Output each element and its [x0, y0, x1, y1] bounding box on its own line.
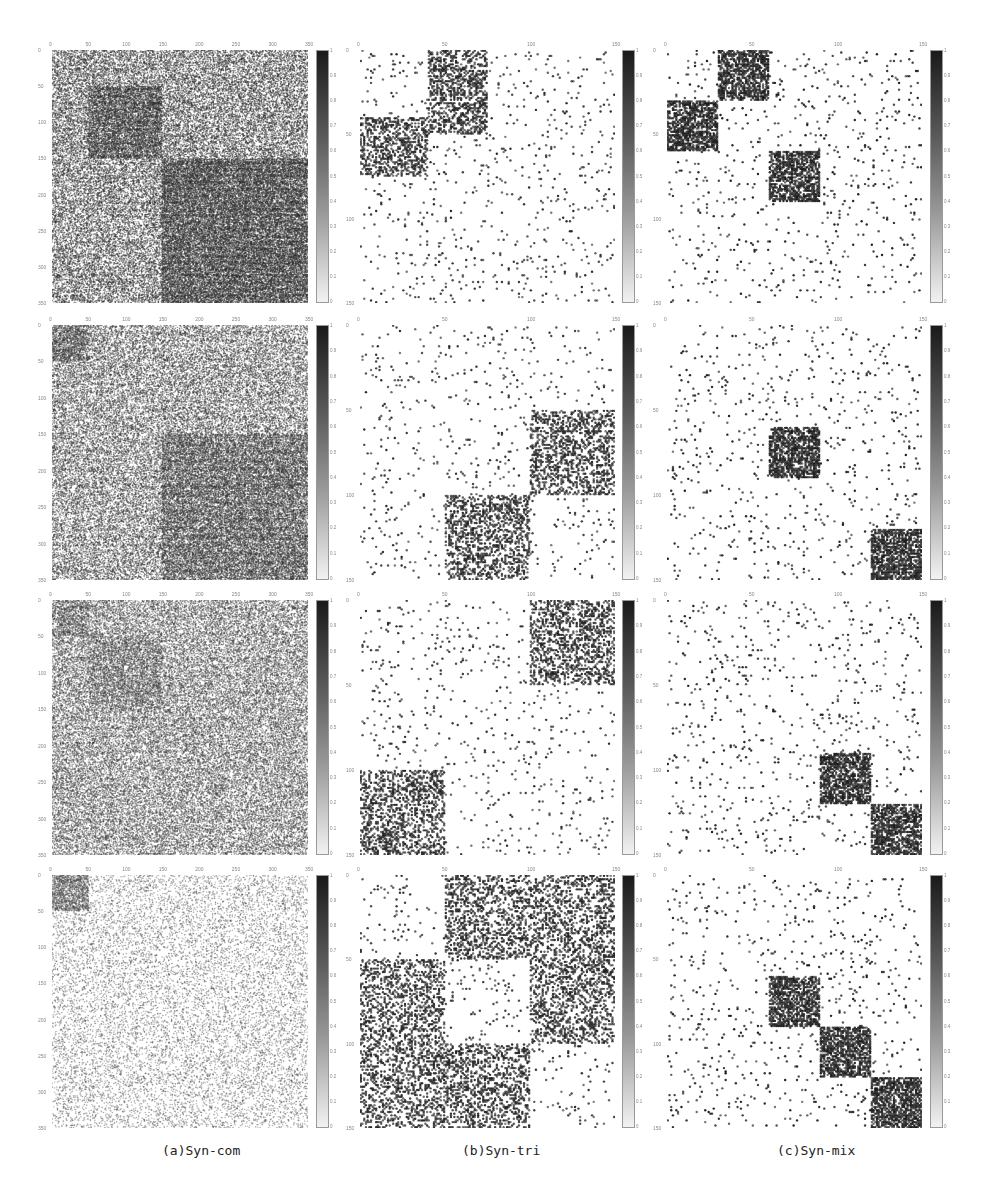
x-tick-label: 100	[527, 591, 535, 597]
y-tick-label: 100	[38, 944, 46, 950]
y-tick-label: 100	[346, 767, 354, 773]
y-tick-label: 50	[653, 682, 659, 688]
colorbar	[930, 600, 943, 855]
x-tick-label: 150	[919, 591, 927, 597]
x-tick-label: 50	[86, 591, 92, 597]
x-tick-label: 50	[442, 41, 448, 47]
colorbar-tick-label: 0.7	[330, 948, 336, 953]
colorbar-tick-label: 0.8	[330, 374, 336, 379]
colorbar-tick-label: 0.6	[636, 424, 642, 429]
x-tick-label: 150	[612, 866, 620, 872]
colorbar-tick-label: 0.1	[944, 1099, 950, 1104]
colorbar-tick-label: 0.4	[330, 199, 336, 204]
colorbar-tick-label: 0	[944, 851, 947, 856]
x-tick-label: 0	[357, 41, 360, 47]
colorbar	[316, 600, 329, 855]
colorbar-tick-label: 0.5	[944, 999, 950, 1004]
colorbar-tick-label: 1	[330, 323, 333, 328]
colorbar-tick-label: 0.2	[636, 1074, 642, 1079]
y-tick-label: 300	[38, 264, 46, 270]
x-tick-label: 300	[268, 591, 276, 597]
colorbar-tick-label: 0.6	[636, 699, 642, 704]
colorbar-tick-label: 0.4	[636, 475, 642, 480]
colorbar-tick-label: 0.8	[636, 923, 642, 928]
colorbar-tick-label: 0.6	[636, 973, 642, 978]
colorbar-tick-label: 1	[944, 873, 947, 878]
colorbar-tick-label: 0	[944, 576, 947, 581]
colorbar-tick-label: 0.8	[636, 374, 642, 379]
colorbar	[622, 50, 635, 303]
colorbar-tick-label: 0.9	[944, 898, 950, 903]
colorbar-tick-label: 0.6	[330, 148, 336, 153]
colorbar-tick-label: 0.9	[636, 348, 642, 353]
y-tick-label: 150	[38, 706, 46, 712]
y-tick-label: 0	[346, 322, 349, 328]
x-tick-label: 150	[612, 316, 620, 322]
y-tick-label: 0	[346, 597, 349, 603]
y-tick-label: 100	[38, 395, 46, 401]
x-tick-label: 50	[749, 41, 755, 47]
colorbar-tick-label: 0.5	[944, 174, 950, 179]
colorbar-tick-label: 0.1	[636, 551, 642, 556]
x-tick-label: 150	[919, 316, 927, 322]
y-tick-label: 150	[346, 577, 354, 583]
colorbar-tick-label: 0.7	[330, 399, 336, 404]
y-tick-label: 50	[653, 956, 659, 962]
y-tick-label: 50	[346, 131, 352, 137]
x-tick-label: 100	[122, 316, 130, 322]
colorbar-tick-label: 0.1	[330, 274, 336, 279]
colorbar-tick-label: 0.7	[330, 674, 336, 679]
colorbar-tick-label: 0	[330, 1124, 333, 1129]
y-tick-label: 350	[38, 577, 46, 583]
colorbar-tick-label: 0.8	[330, 98, 336, 103]
colorbar-tick-label: 0.7	[636, 399, 642, 404]
colorbar-tick-label: 0	[636, 1124, 639, 1129]
y-tick-label: 150	[346, 300, 354, 306]
colorbar-tick-label: 0.9	[330, 623, 336, 628]
colorbar-tick-label: 1	[636, 873, 639, 878]
x-tick-label: 50	[442, 591, 448, 597]
x-tick-label: 150	[159, 866, 167, 872]
colorbar-tick-label: 0.2	[944, 249, 950, 254]
colorbar	[622, 875, 635, 1128]
y-tick-label: 50	[346, 682, 352, 688]
colorbar	[316, 875, 329, 1128]
colorbar-tick-label: 1	[944, 323, 947, 328]
colorbar-tick-label: 0.7	[944, 123, 950, 128]
y-tick-label: 50	[346, 407, 352, 413]
colorbar-tick-label: 0	[636, 851, 639, 856]
y-tick-label: 0	[38, 872, 41, 878]
colorbar-tick-label: 0.3	[944, 500, 950, 505]
x-tick-label: 100	[834, 866, 842, 872]
x-tick-label: 200	[195, 866, 203, 872]
x-tick-label: 300	[268, 866, 276, 872]
colorbar-tick-label: 0.9	[636, 73, 642, 78]
colorbar-tick-label: 0.9	[636, 898, 642, 903]
y-tick-label: 100	[653, 767, 661, 773]
colorbar-tick-label: 0.1	[636, 826, 642, 831]
colorbar-tick-label: 0.1	[330, 826, 336, 831]
colorbar-tick-label: 0.3	[636, 1049, 642, 1054]
adjacency-matrix-plot	[52, 875, 308, 1128]
y-tick-label: 0	[653, 322, 656, 328]
colorbar-tick-label: 0.7	[636, 123, 642, 128]
y-tick-label: 50	[38, 908, 44, 914]
colorbar-tick-label: 0.7	[636, 948, 642, 953]
colorbar-tick-label: 0.2	[330, 800, 336, 805]
y-tick-label: 0	[38, 597, 41, 603]
x-tick-label: 250	[232, 41, 240, 47]
x-tick-label: 150	[919, 866, 927, 872]
y-tick-label: 150	[346, 852, 354, 858]
colorbar-tick-label: 0.4	[636, 750, 642, 755]
colorbar-tick-label: 0.7	[944, 948, 950, 953]
colorbar-tick-label: 0.7	[330, 123, 336, 128]
x-tick-label: 350	[305, 866, 313, 872]
y-tick-label: 100	[38, 119, 46, 125]
x-tick-label: 100	[834, 316, 842, 322]
x-tick-label: 0	[357, 591, 360, 597]
colorbar-tick-label: 0.5	[944, 450, 950, 455]
x-tick-label: 50	[86, 41, 92, 47]
y-tick-label: 50	[38, 633, 44, 639]
colorbar-tick-label: 0.3	[330, 224, 336, 229]
x-tick-label: 100	[122, 591, 130, 597]
